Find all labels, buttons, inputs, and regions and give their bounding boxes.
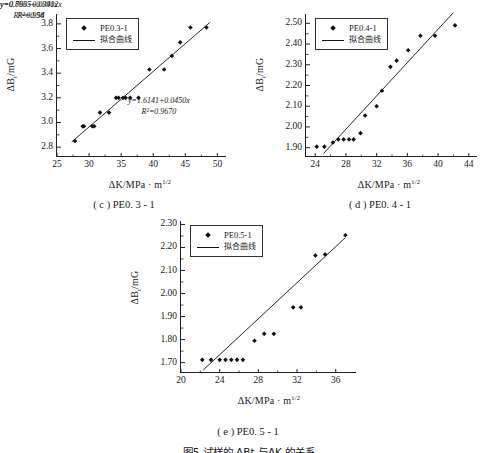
data-point <box>241 358 246 363</box>
x-axis-tick-label: 24 <box>310 160 320 170</box>
data-point <box>336 137 341 142</box>
x-axis-title-c: ΔK/MPa · m1/2 <box>40 178 240 190</box>
data-point <box>322 144 327 149</box>
data-point <box>418 33 423 38</box>
y-axis-tick-label: 2.8 <box>41 142 53 152</box>
y-axis-subscript: t <box>135 289 142 291</box>
legend-c: PE0.3-1 拟合曲线 <box>66 18 139 50</box>
x-axis-title-e: ΔK/MPa · m1/2 <box>164 394 374 406</box>
legend-row-marker: PE0.3-1 <box>71 22 132 34</box>
data-point <box>314 144 319 149</box>
data-point <box>200 358 205 363</box>
equation-text: y=0.796+0.0391x <box>0 0 58 9</box>
y-axis-symbol: ΔB <box>129 291 140 305</box>
data-point <box>351 137 356 142</box>
data-point <box>331 140 336 145</box>
x-axis-tick-label: 35 <box>116 160 126 170</box>
data-point <box>235 358 240 363</box>
x-axis-tick-label: 36 <box>403 160 413 170</box>
diamond-marker-icon <box>320 26 346 30</box>
legend-label-fit: 拟合曲线 <box>349 36 381 44</box>
x-axis-tick-label: 32 <box>292 376 302 386</box>
x-axis-tick-label: 44 <box>464 160 474 170</box>
data-point <box>347 137 352 142</box>
y-axis-symbol: ΔB <box>254 78 265 92</box>
data-point <box>453 23 458 28</box>
data-point <box>394 58 399 63</box>
line-swatch-icon <box>320 40 346 41</box>
data-point <box>252 338 257 343</box>
y-axis-tick-label: 1.90 <box>160 312 177 322</box>
legend-row-marker: PE0.5-1 <box>195 229 256 241</box>
legend-label-series: PE0.3-1 <box>100 24 128 33</box>
data-point <box>363 113 368 118</box>
y-axis-title-c: ΔBt/mG <box>5 40 18 110</box>
legend-d: PE0.4-1 拟合曲线 <box>315 18 388 50</box>
subcaption-e: ( e ) PE0. 5 - 1 <box>168 426 328 437</box>
x-axis-exponent: 1/2 <box>291 394 300 401</box>
y-axis-tick-label: 3.6 <box>41 44 53 54</box>
y-axis-tick-label: 2.10 <box>160 266 177 276</box>
x-axis-tick-label: 40 <box>148 160 158 170</box>
y-axis-tick-label: 3.0 <box>41 118 53 128</box>
data-point <box>341 137 346 142</box>
y-axis-tick-label: 1.80 <box>160 335 177 345</box>
x-axis-tick-label: 45 <box>181 160 191 170</box>
x-axis-tick-label: 20 <box>176 376 186 386</box>
y-axis-tick-label: 1.70 <box>160 358 177 368</box>
diamond-marker-icon <box>195 233 221 237</box>
y-axis-unit: /mG <box>129 271 140 289</box>
equation-annotation-e: y=0.796+0.0391x R²=0.958 <box>0 0 58 22</box>
y-axis-unit: /mG <box>5 58 16 76</box>
x-axis-tick-label: 30 <box>84 160 94 170</box>
x-axis-tick-label: 32 <box>372 160 382 170</box>
x-axis-tick-label: 50 <box>213 160 223 170</box>
legend-row-line: 拟合曲线 <box>195 241 256 253</box>
y-axis-tick-label: 3.2 <box>41 93 53 103</box>
data-point <box>178 40 183 45</box>
data-point <box>73 139 78 144</box>
data-point <box>388 65 393 70</box>
y-axis-tick-label: 2.30 <box>285 60 302 70</box>
legend-row-line: 拟合曲线 <box>320 34 381 46</box>
y-axis-tick-label: 2.10 <box>285 101 302 111</box>
x-axis-tick-label: 24 <box>215 376 225 386</box>
data-point <box>262 332 267 337</box>
data-point <box>147 67 152 72</box>
y-axis-subscript: t <box>260 76 267 78</box>
chart-panel-d: 1.902.002.102.202.302.402.50242832364044… <box>249 0 498 215</box>
x-axis-exponent: 1/2 <box>411 178 420 185</box>
y-axis-tick-label: 2.20 <box>285 81 302 91</box>
x-axis-tick-label: 36 <box>331 376 341 386</box>
y-axis-tick-label: 2.30 <box>160 220 177 230</box>
y-axis-unit: /mG <box>254 58 265 76</box>
x-axis-tick-label: 28 <box>341 160 351 170</box>
legend-row-line: 拟合曲线 <box>71 34 132 46</box>
x-axis-exponent: 1/2 <box>162 178 171 185</box>
figure-caption: 图5 试样的 ΔBt 与ΔK 的关系 <box>0 444 498 453</box>
y-axis-title-e: ΔBt/mG <box>129 253 142 323</box>
figure-page: 2.83.03.23.43.63.8253035404550 PE0.3-1 拟… <box>0 0 498 453</box>
data-point <box>98 110 103 115</box>
chart-panel-e: 1.701.801.902.002.102.202.302024283236 P… <box>124 207 384 439</box>
line-swatch-icon <box>71 40 97 41</box>
data-point <box>204 25 209 30</box>
y-axis-symbol: ΔB <box>5 78 16 92</box>
legend-label-series: PE0.4-1 <box>349 24 377 33</box>
data-point <box>272 332 277 337</box>
data-point <box>374 104 379 109</box>
y-axis-title-d: ΔBt/mG <box>254 40 267 110</box>
x-axis-symbol: ΔK/MPa <box>109 179 146 190</box>
diamond-marker-icon <box>71 26 97 30</box>
y-axis-tick-label: 2.00 <box>285 122 302 132</box>
y-axis-tick-label: 2.40 <box>285 39 302 49</box>
legend-label-fit: 拟合曲线 <box>224 243 256 251</box>
data-point <box>343 233 348 238</box>
legend-e: PE0.5-1 拟合曲线 <box>190 225 263 257</box>
legend-label-fit: 拟合曲线 <box>100 36 132 44</box>
y-axis-tick-label: 2.50 <box>285 19 302 29</box>
data-point <box>323 252 328 257</box>
fit-line <box>203 238 345 370</box>
x-axis-symbol: ΔK/MPa <box>358 179 395 190</box>
y-axis-subscript: t <box>11 76 18 78</box>
